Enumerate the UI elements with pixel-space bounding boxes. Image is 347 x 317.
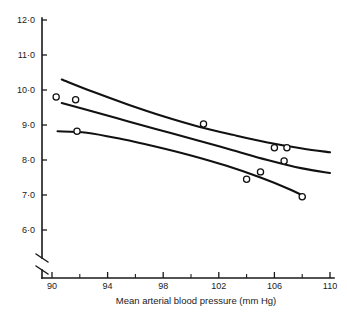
- y-tick-label-4: 8·0: [22, 155, 35, 165]
- x-axis-title: Mean arterial blood pressure (mm Hg): [116, 295, 277, 306]
- x-tick-label-90: 90: [47, 281, 57, 291]
- x-tick-label-110: 110: [323, 281, 337, 291]
- fitted-curves: [58, 80, 330, 197]
- curve-lower-curve: [58, 131, 305, 196]
- y-tick-label-3: 9·0: [22, 120, 35, 130]
- data-point-7: [281, 158, 287, 164]
- y-tick-label-1: 11·0: [18, 50, 35, 60]
- curve-middle-curve: [62, 103, 330, 173]
- y-tick-label-2: 10·0: [17, 85, 35, 95]
- y-tick-label-6: 6·0: [22, 225, 35, 235]
- data-point-1: [73, 97, 79, 103]
- x-axis-tick-labels: 909498102106110: [47, 281, 337, 291]
- x-axis-ticks: [52, 272, 330, 278]
- x-tick-label-94: 94: [103, 281, 113, 291]
- curve-upper-curve: [62, 80, 330, 153]
- data-point-3: [200, 121, 206, 127]
- x-tick-label-106: 106: [267, 281, 282, 291]
- x-tick-label-98: 98: [158, 281, 168, 291]
- chart-figure: 12·011·010·09·08·07·06·0 909498102106110…: [0, 0, 347, 317]
- data-point-4: [244, 176, 250, 182]
- x-tick-label-102: 102: [211, 281, 226, 291]
- data-point-0: [53, 94, 59, 100]
- y-tick-label-5: 7·0: [22, 190, 35, 200]
- data-point-2: [74, 128, 80, 134]
- y-tick-label-0: 12·0: [17, 15, 35, 25]
- data-point-9: [299, 194, 305, 200]
- data-point-6: [271, 145, 277, 151]
- data-points: [53, 94, 305, 200]
- data-point-8: [284, 145, 290, 151]
- data-point-5: [257, 169, 263, 175]
- scatter-plot-canvas: 12·011·010·09·08·07·06·0 909498102106110…: [0, 0, 347, 317]
- y-axis-tick-labels: 12·011·010·09·08·07·06·0: [17, 15, 35, 235]
